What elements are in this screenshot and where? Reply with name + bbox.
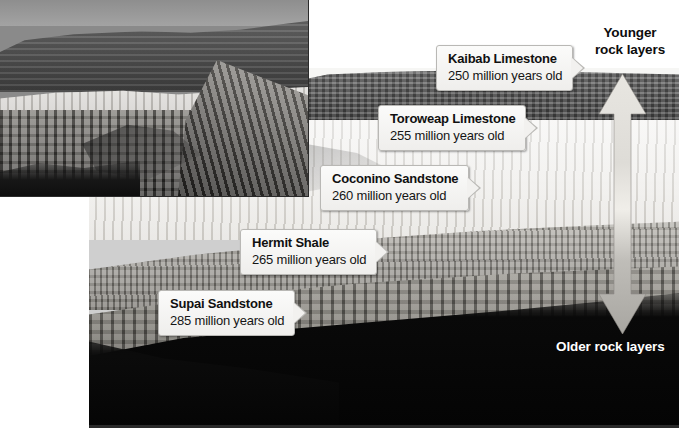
inset-canyon-photo <box>0 0 309 197</box>
younger-rock-layers-label: Younger rock layers <box>582 24 678 58</box>
younger-label-line2: rock layers <box>582 41 678 58</box>
younger-label-line1: Younger <box>582 24 678 41</box>
callout-kaibab-tail <box>571 57 583 79</box>
callout-coconino-sandstone[interactable]: Coconino Sandstone 260 million years old <box>320 165 469 211</box>
inset-photo-sky <box>0 0 308 26</box>
callout-supai-sandstone[interactable]: Supai Sandstone 285 million years old <box>158 290 295 336</box>
callout-hermit-title: Hermit Shale <box>252 235 366 251</box>
double-headed-vertical-arrow <box>598 74 647 334</box>
callout-hermit-shale[interactable]: Hermit Shale 265 million years old <box>240 229 377 275</box>
older-rock-layers-label: Older rock layers <box>556 338 665 355</box>
callout-hermit-tail <box>375 241 387 263</box>
figure-canvas: Younger rock layers Older rock layers Ka… <box>0 0 679 435</box>
callout-supai-tail <box>293 302 305 324</box>
callout-supai-age: 285 million years old <box>170 312 284 329</box>
callout-toroweap-limestone[interactable]: Toroweap Limestone 255 million years old <box>378 105 526 151</box>
callout-coconino-age: 260 million years old <box>332 187 458 204</box>
callout-kaibab-title: Kaibab Limestone <box>448 51 562 67</box>
callout-coconino-title: Coconino Sandstone <box>332 171 458 187</box>
callout-toroweap-title: Toroweap Limestone <box>390 111 515 127</box>
callout-kaibab-age: 250 million years old <box>448 67 562 84</box>
callout-kaibab-limestone[interactable]: Kaibab Limestone 250 million years old <box>436 45 573 91</box>
callout-toroweap-tail <box>524 117 536 139</box>
callout-hermit-age: 265 million years old <box>252 251 366 268</box>
callout-toroweap-age: 255 million years old <box>390 127 515 144</box>
callout-supai-title: Supai Sandstone <box>170 296 284 312</box>
main-photo-bottom-edge <box>89 425 679 428</box>
callout-coconino-tail <box>467 177 479 199</box>
